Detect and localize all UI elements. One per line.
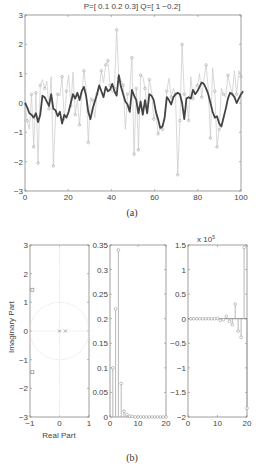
chart-b3-ytick: 1 [182, 266, 187, 275]
chart-b3-ytick: 1.5 [175, 241, 187, 250]
chart-b3-stem-marker [237, 330, 240, 333]
chart-b3-stem-marker [193, 317, 196, 320]
chart-b2-ytick: 0.2 [97, 315, 109, 324]
chart-a-xtick: 40 [107, 193, 116, 202]
chart-a-xtick: 80 [193, 193, 202, 202]
chart-b3-stem-marker [216, 317, 219, 320]
chart-b2-stem-marker [139, 416, 142, 419]
chart-b-impulse-response: 010200.350.30.250.20.150.10.050 [92, 241, 171, 428]
chart-b1-ytick: −1 [19, 356, 29, 365]
chart-b3-ytick: 0 [182, 315, 187, 324]
chart-b3-ytick: −0.5 [170, 339, 186, 348]
chart-b2-stem-marker [111, 366, 114, 369]
chart-b1-ytick: 2 [24, 270, 29, 279]
chart-b3-stem-marker [195, 317, 198, 320]
chart-b2-stem-marker [153, 416, 156, 419]
chart-b2-stem-marker [117, 249, 120, 252]
chart-b1-ytick: 3 [24, 241, 29, 250]
zero-marker [31, 288, 34, 291]
chart-b2-ytick: 0.35 [92, 241, 108, 250]
chart-b3-ytick: −1 [177, 364, 187, 373]
chart-b2-stem-marker [125, 413, 128, 416]
chart-b2-ytick: 0.1 [97, 364, 109, 373]
chart-a-ytick: 0 [19, 99, 24, 108]
chart-b3-stem-marker [225, 315, 228, 318]
chart-b2-ytick: 0.25 [92, 290, 108, 299]
chart-b3-stem-marker [190, 317, 193, 320]
chart-b3-stem-marker [210, 317, 213, 320]
chart-b2-ytick: 0.15 [92, 339, 108, 348]
chart-b3-stem-marker [228, 320, 231, 323]
chart-b-stem-x1e5: 010201.510.50−0.5−1−1.5−2 [170, 241, 252, 428]
chart-b1-xtick: 0 [57, 419, 62, 428]
chart-b2-stem-marker [120, 382, 123, 385]
chart-b3-stem-marker [219, 319, 222, 322]
chart-b2-stem-marker [151, 416, 154, 419]
chart-b2-stem-marker [128, 415, 131, 418]
noisy-series-line [25, 30, 241, 175]
chart-b2-stem-marker [148, 416, 151, 419]
chart-b2-stem-marker [114, 307, 117, 310]
caption-b: (b) [126, 452, 138, 464]
chart-a-xtick: 100 [234, 193, 248, 202]
chart-b1-ytick: −2 [19, 384, 29, 393]
chart-b2-stem-marker [156, 416, 159, 419]
chart-b3-xtick: 10 [213, 419, 222, 428]
chart-b3-stem-marker [243, 246, 246, 249]
chart-b3-stem-marker [213, 317, 216, 320]
chart-b2-xtick: 10 [134, 419, 143, 428]
chart-a-plot-area: 0204060801003210−1−2−3 [14, 11, 248, 202]
chart-a-xtick: 20 [64, 193, 73, 202]
chart-b1-ytick: 1 [24, 298, 29, 307]
chart-b3-xtick: 0 [186, 419, 191, 428]
chart-a-ytick: 1 [19, 70, 24, 79]
chart-b3-ytick: −2 [177, 413, 187, 422]
chart-b1-ytick: −3 [19, 413, 29, 422]
xlabel-real-part: Real Part [42, 431, 76, 440]
chart-b2-xtick: 0 [108, 419, 113, 428]
chart-b2-ytick: 0.05 [92, 388, 108, 397]
chart-b2-ytick: 0 [104, 413, 109, 422]
figure: P=[ 0.1 0.2 0.3] Q=[ 1 −0.2] 02040608010… [0, 0, 262, 470]
chart-b3-stem-marker [222, 318, 225, 321]
chart-b3-xtick: 20 [243, 419, 252, 428]
chart-b3-ytick: 0.5 [175, 290, 187, 299]
chart-b1-xtick: 1 [87, 419, 92, 428]
chart-a-ytick: −1 [14, 128, 24, 137]
chart-b2-stem-marker [159, 416, 162, 419]
caption-a: (a) [126, 207, 137, 219]
chart-b2-stem-marker [134, 416, 137, 419]
chart-b3-stem-marker [207, 317, 210, 320]
chart-b3-stem-marker [198, 317, 201, 320]
chart-b2-xtick: 20 [162, 419, 171, 428]
chart-b2-stem-marker [131, 415, 134, 418]
chart-b2-stem-marker [137, 416, 140, 419]
chart-a-ytick: −3 [14, 187, 24, 196]
chart-a: P=[ 0.1 0.2 0.3] Q=[ 1 −0.2] 02040608010… [14, 2, 248, 219]
chart-a-xtick: 0 [23, 193, 28, 202]
chart-b3-stem-marker [240, 336, 243, 339]
chart-a-xtick: 60 [150, 193, 159, 202]
chart-b2-stem-marker [142, 416, 145, 419]
chart-b3-stem-marker [231, 323, 234, 326]
chart-b3-stem-marker [204, 317, 207, 320]
multiplier-label: x 105 [197, 234, 215, 244]
ylabel-imaginary-part: Imaginary Part [7, 300, 16, 353]
chart-b3-stem-marker [246, 407, 249, 410]
chart-b2-ytick: 0.3 [97, 266, 109, 275]
zero-marker [31, 371, 34, 374]
chart-b3-stem-marker [234, 303, 237, 306]
chart-b2-stem-marker [145, 416, 148, 419]
chart-b-pole-zero: −1013210−1−2−3 [19, 241, 92, 428]
chart-b2-stem-marker [165, 416, 168, 419]
chart-a-ytick: 2 [19, 40, 24, 49]
chart-a-ytick: 3 [19, 11, 24, 20]
chart-b2-stem-marker [162, 416, 165, 419]
chart-b2-stem-marker [123, 410, 126, 413]
chart-b1-ytick: 0 [24, 327, 29, 336]
chart-b3-stem-marker [201, 317, 204, 320]
chart-a-title: P=[ 0.1 0.2 0.3] Q=[ 1 −0.2] [84, 2, 181, 11]
filtered-series-line [25, 75, 243, 128]
chart-b3-ytick: −1.5 [170, 388, 186, 397]
chart-a-ytick: −2 [14, 158, 24, 167]
